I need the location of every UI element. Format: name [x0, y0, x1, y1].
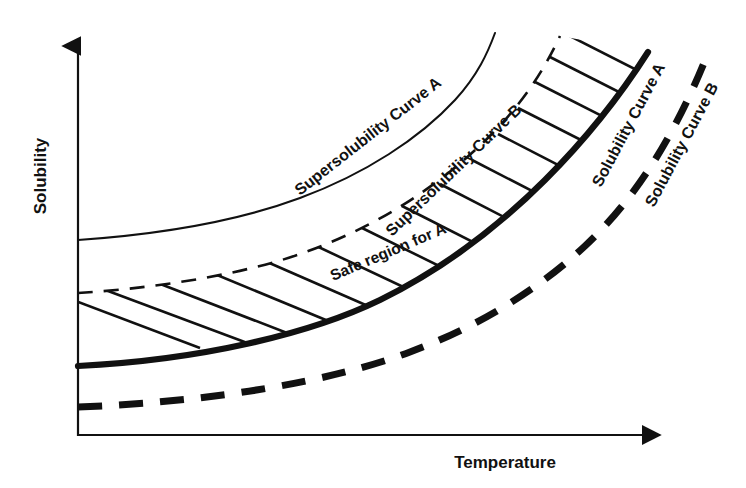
x-axis-title: Temperature [454, 453, 556, 472]
label-supersolubility-curve-a: Supersolubility Curve A [291, 73, 444, 198]
label-solubility-curve-b: Solubility Curve B [642, 80, 722, 210]
y-axis-title: Solubility [31, 137, 50, 214]
solubility-diagram: Solubility Temperature Supersolubility C… [0, 0, 746, 488]
axes-group [78, 46, 660, 436]
solubility-chart-svg: Solubility Temperature Supersolubility C… [0, 0, 746, 488]
curve-supersolubility-a [78, 33, 495, 240]
curve-solubility-a [78, 52, 648, 366]
